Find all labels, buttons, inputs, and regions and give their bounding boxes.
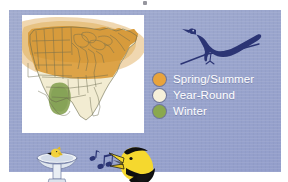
singing-bird-svg [108, 144, 158, 182]
range-map [22, 15, 144, 133]
perched-blackbird-silhouette-icon [177, 20, 263, 70]
figure-root: Spring/Summer Year-Round Winter [0, 0, 288, 182]
legend-swatch-winter [153, 105, 166, 118]
legend-label-spring-summer: Spring/Summer [173, 73, 254, 86]
legend-swatch-spring-summer [153, 73, 166, 86]
birdbath-svg [34, 140, 80, 182]
legend: Spring/Summer Year-Round Winter [153, 71, 281, 119]
legend-swatch-year-round [153, 89, 166, 102]
birdbath-with-bird-icon [34, 140, 80, 182]
infographic-panel: Spring/Summer Year-Round Winter [9, 10, 281, 172]
legend-label-winter: Winter [173, 105, 207, 118]
legend-item-winter: Winter [153, 103, 281, 119]
legend-item-spring-summer: Spring/Summer [153, 71, 281, 87]
legend-item-year-round: Year-Round [153, 87, 281, 103]
legend-label-year-round: Year-Round [173, 89, 235, 102]
range-map-svg [22, 15, 144, 133]
bird-silhouette-svg [177, 20, 263, 70]
scan-artifact [143, 1, 147, 5]
singing-yellow-bird-head-icon [108, 144, 158, 182]
